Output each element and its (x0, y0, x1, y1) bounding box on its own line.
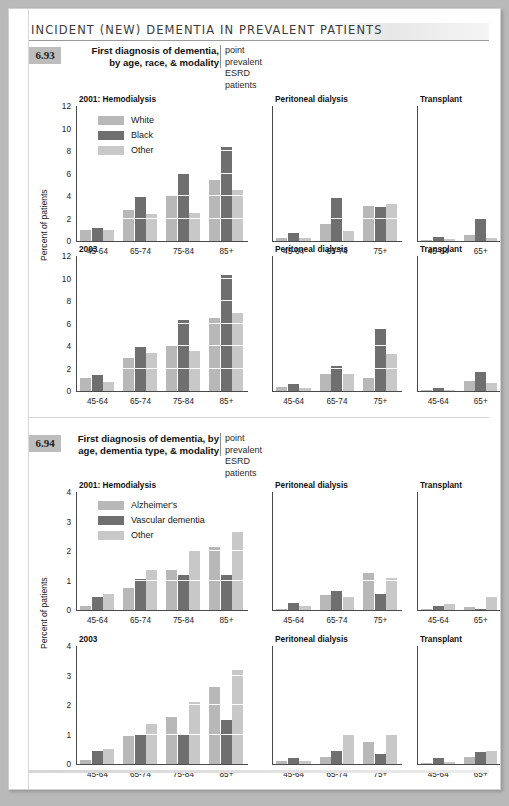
gridline (232, 195, 243, 196)
bar (209, 318, 220, 391)
gridline (178, 218, 189, 219)
gridline (375, 345, 386, 346)
bar (343, 597, 354, 610)
gridline (232, 323, 243, 324)
bar (146, 353, 157, 391)
bar (421, 609, 432, 610)
y-tick-label: 0 (55, 606, 71, 614)
figure-title: First diagnosis of dementia, by age, rac… (69, 45, 219, 68)
bar (232, 313, 243, 391)
bar (221, 575, 232, 610)
bar (103, 230, 114, 241)
y-tick-label: 2 (55, 701, 71, 709)
bar (343, 735, 354, 765)
y-axis-line (76, 106, 77, 241)
bar (80, 378, 91, 392)
x-axis-line (417, 764, 501, 765)
gridline (221, 345, 232, 346)
bar (146, 570, 157, 610)
y-axis-line (76, 646, 77, 764)
x-axis-line (76, 610, 248, 611)
bar (189, 702, 200, 764)
bar (123, 736, 134, 764)
gridline (232, 368, 243, 369)
y-tick-label: 3 (55, 518, 71, 526)
x-tick-label: 65-74 (315, 616, 358, 625)
gridline (178, 345, 189, 346)
bar (486, 751, 497, 764)
gridline (209, 580, 220, 581)
y-tick-label: 0 (55, 237, 71, 245)
y-axis-line (272, 492, 273, 610)
y-tick-label: 2 (55, 215, 71, 223)
bar (433, 606, 444, 610)
y-tick-label: 10 (55, 125, 71, 133)
bar (299, 606, 310, 610)
x-tick-label: 75-84 (162, 247, 205, 256)
bar (421, 240, 432, 241)
gridline (189, 368, 200, 369)
gridline (221, 300, 232, 301)
gridline (386, 580, 397, 581)
chart-panel: Peritoneal dialysis45-6465-7475+ (272, 646, 402, 764)
bar (363, 378, 374, 392)
bar (103, 749, 114, 764)
gridline (178, 368, 189, 369)
bar (486, 597, 497, 610)
bar (178, 575, 189, 610)
gridline (166, 195, 177, 196)
bar (135, 197, 146, 241)
figure-header-divider (220, 433, 221, 456)
gridline (123, 368, 134, 369)
bar (189, 551, 200, 610)
bar (375, 594, 386, 610)
panel-title: Peritoneal dialysis (275, 94, 348, 104)
bar (103, 594, 114, 610)
bar (135, 735, 146, 765)
chart-panel: Peritoneal dialysis45-6465-7475+ (272, 492, 402, 610)
y-axis-line (417, 256, 418, 391)
bar (166, 345, 177, 391)
gridline (166, 218, 177, 219)
chart-panel: 20030123445-6465-7475-8485+ (76, 646, 248, 764)
bar (433, 758, 444, 764)
gridline (209, 323, 220, 324)
bar (299, 238, 310, 241)
bar (209, 547, 220, 610)
bar (331, 198, 342, 241)
bar (178, 735, 189, 765)
legend-swatch (98, 146, 124, 155)
gridline (135, 580, 146, 581)
gridline (166, 580, 177, 581)
chart-panel: Transplant45-6465+ (417, 106, 501, 241)
gridline (221, 278, 232, 279)
legend-swatch (98, 516, 124, 525)
gridline (209, 704, 220, 705)
bar (386, 578, 397, 610)
gridline (221, 323, 232, 324)
y-tick-label: 0 (55, 760, 71, 768)
bar (209, 180, 220, 241)
panel-title: Transplant (420, 94, 462, 104)
bar (363, 742, 374, 764)
x-tick-label: 65-74 (119, 247, 162, 256)
chart-panel: 2001: Hemodialysis02468101245-6465-7475-… (76, 106, 248, 241)
chart-panel: Peritoneal dialysis45-6465-7475+ (272, 256, 402, 391)
figure-separator (29, 417, 489, 418)
chart-panel: Transplant45-6465+ (417, 492, 501, 610)
gridline (166, 368, 177, 369)
gridline (221, 580, 232, 581)
y-tick-label: 0 (55, 387, 71, 395)
bar (92, 751, 103, 764)
gridline (146, 580, 157, 581)
gridline (375, 368, 386, 369)
bar (375, 207, 386, 241)
bar (135, 347, 146, 391)
gridline (221, 173, 232, 174)
x-tick-label: 45-64 (76, 397, 119, 406)
y-tick-label: 8 (55, 297, 71, 305)
panel-title: Peritoneal dialysis (275, 634, 348, 644)
y-tick-label: 10 (55, 275, 71, 283)
x-tick-label: 85+ (205, 616, 248, 625)
bar (299, 761, 310, 764)
